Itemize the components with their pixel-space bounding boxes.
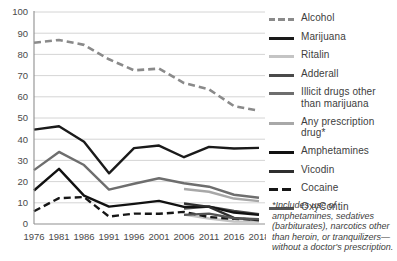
y-axis-tick-label: 30 bbox=[17, 155, 28, 166]
x-axis-tick-label: 2006 bbox=[173, 231, 194, 242]
x-axis-tick-label: 1981 bbox=[48, 231, 69, 242]
plot-area: 0102030405060708090100 19761981198619911… bbox=[0, 0, 266, 261]
legend-item-label: Vicodin bbox=[301, 164, 334, 176]
y-axis-tick-label: 90 bbox=[17, 28, 28, 39]
swatch-bar bbox=[269, 55, 294, 58]
y-axis-tick-label: 0 bbox=[23, 218, 28, 229]
legend-swatch-adderall bbox=[269, 70, 294, 80]
legend-item[interactable]: Amphetamines bbox=[269, 145, 397, 157]
legend-swatch-illicit-drugs-other-than-marijuana bbox=[269, 88, 294, 98]
y-axis-tick-label: 80 bbox=[17, 49, 28, 60]
y-axis-tick-label: 10 bbox=[17, 197, 28, 208]
legend-item[interactable]: Illicit drugs other than marijuana bbox=[269, 86, 397, 109]
x-axis-tick-label: 2018 bbox=[248, 231, 266, 242]
legend-item[interactable]: Any prescription drug* bbox=[269, 116, 397, 139]
legend-item-label: Any prescription drug* bbox=[301, 116, 397, 139]
x-axis-tick-label: 2011 bbox=[199, 231, 219, 242]
legend-item-label: Alcohol bbox=[301, 12, 335, 24]
y-axis-tick-label: 50 bbox=[17, 112, 28, 123]
x-axis-tick-label: 2001 bbox=[148, 231, 169, 242]
swatch-bar bbox=[269, 122, 294, 125]
legend-swatch-amphetamines bbox=[269, 147, 294, 157]
swatch-dash-segment bbox=[288, 18, 294, 21]
legend-item-label: Marijuana bbox=[301, 31, 346, 43]
footnote: *Includes use of amphetamines, sedatives… bbox=[272, 200, 394, 253]
legend-swatch-marijuana bbox=[269, 33, 294, 43]
legend-item-label: Ritalin bbox=[301, 49, 330, 61]
legend-item[interactable]: Marijuana bbox=[269, 31, 397, 43]
legend-swatch-cocaine bbox=[269, 184, 294, 194]
legend-item[interactable]: Alcohol bbox=[269, 12, 397, 24]
x-axis-tick-label: 2016 bbox=[223, 231, 244, 242]
series-line-marijuana bbox=[34, 126, 259, 173]
legend-item-label: Cocaine bbox=[301, 182, 338, 194]
y-axis-tick-label: 70 bbox=[17, 70, 28, 81]
legend-swatch-vicodin bbox=[269, 166, 294, 176]
legend-item-label: Illicit drugs other than marijuana bbox=[301, 86, 397, 109]
y-axis-tick-label: 60 bbox=[17, 91, 28, 102]
swatch-dash-segment bbox=[269, 188, 278, 191]
chart-screenshot: 0102030405060708090100 19761981198619911… bbox=[0, 0, 397, 261]
line-chart: 0102030405060708090100 19761981198619911… bbox=[0, 0, 266, 261]
x-axis-tick-label: 1991 bbox=[98, 231, 119, 242]
swatch-bar bbox=[269, 37, 294, 40]
legend-swatch-ritalin bbox=[269, 51, 294, 61]
y-axis-ticks: 0102030405060708090100 bbox=[12, 6, 28, 229]
swatch-bar bbox=[269, 92, 294, 95]
legend: AlcoholMarijuanaRitalinAdderallIllicit d… bbox=[269, 12, 397, 219]
swatch-dash-segment bbox=[269, 18, 275, 21]
swatch-bar bbox=[269, 74, 294, 77]
swatch-dash-segment bbox=[278, 18, 285, 21]
x-axis-ticks: 1976198119861991199620012006201120162018 bbox=[23, 231, 266, 242]
legend-item[interactable]: Adderall bbox=[269, 68, 397, 80]
legend-swatch-any-prescription-drug bbox=[269, 118, 294, 128]
swatch-dash-segment bbox=[282, 188, 291, 191]
x-axis-tick-label: 1976 bbox=[23, 231, 44, 242]
swatch-bar bbox=[269, 170, 294, 173]
legend-item[interactable]: Cocaine bbox=[269, 182, 397, 194]
y-axis-tick-label: 40 bbox=[17, 134, 28, 145]
y-axis-tick-label: 20 bbox=[17, 176, 28, 187]
legend-item-label: Adderall bbox=[301, 68, 339, 80]
series-line-illicit-drugs-other-than-marijuana bbox=[34, 152, 259, 198]
swatch-bar bbox=[269, 151, 294, 154]
legend-item[interactable]: Ritalin bbox=[269, 49, 397, 61]
x-axis-tick-label: 1996 bbox=[123, 231, 144, 242]
x-axis-tick-label: 1986 bbox=[73, 231, 94, 242]
legend-swatch-alcohol bbox=[269, 14, 294, 24]
series-lines bbox=[34, 40, 259, 222]
legend-item[interactable]: Vicodin bbox=[269, 164, 397, 176]
y-axis-tick-label: 100 bbox=[12, 6, 28, 17]
legend-item-label: Amphetamines bbox=[301, 145, 369, 157]
